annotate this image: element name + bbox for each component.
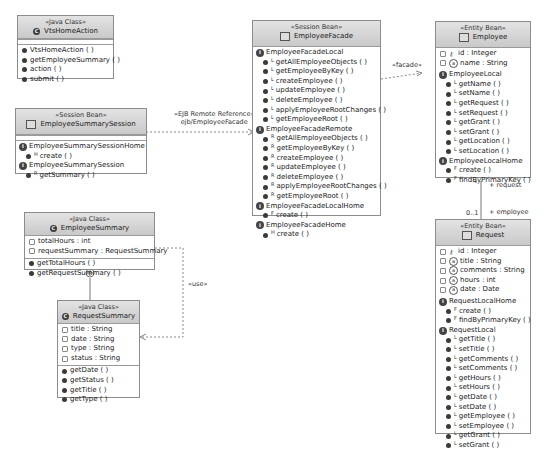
key-icon: ⚷ bbox=[449, 51, 456, 57]
method-item[interactable]: Hcreate ( ) bbox=[253, 230, 380, 240]
facade-label: «facade» bbox=[392, 61, 422, 69]
public-method-icon bbox=[263, 117, 268, 122]
attribute-item[interactable]: ⚷id : Integer bbox=[436, 49, 530, 59]
class-vtshomeaction[interactable]: «Java Class» CVtsHomeAction VtsHomeActio… bbox=[17, 15, 114, 79]
public-method-icon bbox=[446, 178, 451, 183]
class-employeesummary[interactable]: «Java Class» CEmployeeSummary totalHours… bbox=[24, 212, 155, 270]
private-attribute-icon bbox=[440, 268, 446, 274]
method-item[interactable]: FfindByPrimaryKey ( ) bbox=[436, 176, 530, 186]
method-item[interactable]: getTitle ( ) bbox=[58, 386, 139, 396]
bean-request[interactable]: «Entity Bean» Request ⚷id : Integeratitl… bbox=[435, 219, 531, 434]
interface-icon: I bbox=[439, 157, 447, 165]
attribute-item[interactable]: date : String bbox=[58, 335, 139, 345]
method-item[interactable]: LsetGrant ( ) bbox=[436, 128, 530, 138]
method-item[interactable]: LgetRequest ( ) bbox=[436, 99, 530, 109]
attribute-label: id : Integer bbox=[458, 49, 496, 59]
interface-name: RequestLocalHome bbox=[449, 297, 516, 307]
bean-employeesummarysession[interactable]: «Session Bean» EmployeeSummarySession IE… bbox=[15, 108, 147, 174]
class-requestsummary[interactable]: «Java Class» CRequestSummary title : Str… bbox=[57, 300, 140, 398]
method-item[interactable]: LsetGrant ( ) bbox=[436, 441, 530, 451]
method-item[interactable]: getType ( ) bbox=[58, 395, 139, 405]
interface-marker: R bbox=[271, 152, 274, 162]
class-name: Request bbox=[476, 231, 504, 240]
method-item[interactable]: getTotalHours ( ) bbox=[25, 259, 154, 269]
method-item[interactable]: LsetRequest ( ) bbox=[436, 109, 530, 119]
method-item[interactable]: getStatus ( ) bbox=[58, 376, 139, 386]
method-item[interactable]: Hcreate ( ) bbox=[16, 152, 146, 162]
interface-marker: L bbox=[454, 372, 457, 382]
method-item[interactable]: LgetName ( ) bbox=[436, 80, 530, 90]
method-item[interactable]: LgetEmployeeRoot ( ) bbox=[253, 115, 380, 125]
bean-employee[interactable]: «Entity Bean» Employee ⚷id : Integeranam… bbox=[435, 21, 531, 178]
interface-marker: L bbox=[271, 94, 274, 104]
method-item[interactable]: action ( ) bbox=[18, 65, 113, 75]
attribute-item[interactable]: ⚷id : Integer bbox=[436, 247, 530, 257]
public-method-icon bbox=[62, 388, 67, 393]
method-item[interactable]: getDate ( ) bbox=[58, 366, 139, 376]
method-item[interactable]: getEmployeeSummary ( ) bbox=[18, 56, 113, 66]
attribute-item[interactable]: acomments : String bbox=[436, 266, 530, 276]
attribute-item[interactable]: atitle : String bbox=[436, 257, 530, 267]
method-item[interactable]: LgetTitle ( ) bbox=[436, 335, 530, 345]
method-item[interactable]: VtsHomeAction ( ) bbox=[18, 46, 113, 56]
method-item[interactable]: LgetLocation ( ) bbox=[436, 137, 530, 147]
attribute-item[interactable]: totalHours : int bbox=[25, 237, 154, 247]
method-label: findByPrimaryKey ( ) bbox=[459, 316, 531, 326]
public-method-icon bbox=[62, 378, 67, 383]
method-item[interactable]: LsetComments ( ) bbox=[436, 364, 530, 374]
attribute-item[interactable]: requestSummary : RequestSummary bbox=[25, 247, 154, 257]
method-item[interactable]: Fcreate ( ) bbox=[253, 211, 380, 221]
attribute-item[interactable]: ahours : int bbox=[436, 276, 530, 286]
method-label: getDate ( ) bbox=[70, 366, 108, 376]
interface-item[interactable]: IEmployeeLocal bbox=[436, 70, 530, 80]
attribute-item[interactable]: status : String bbox=[58, 354, 139, 364]
interface-name: EmployeeFacadeLocal bbox=[266, 48, 343, 58]
private-attribute-icon bbox=[62, 346, 68, 352]
attribute-item[interactable]: adate : Date bbox=[436, 285, 530, 295]
public-method-icon bbox=[29, 261, 34, 266]
facade-connector[interactable] bbox=[381, 73, 422, 79]
method-item[interactable]: RgetSummary ( ) bbox=[16, 171, 146, 181]
cmp-field-icon: a bbox=[449, 266, 458, 275]
method-item[interactable]: LsetHours ( ) bbox=[436, 383, 530, 393]
method-item[interactable]: LgetGrant ( ) bbox=[436, 431, 530, 441]
method-item[interactable]: LgetDate ( ) bbox=[436, 393, 530, 403]
private-attribute-icon bbox=[440, 249, 446, 255]
interface-icon: I bbox=[19, 162, 27, 170]
method-item[interactable]: LsetLocation ( ) bbox=[436, 147, 530, 157]
interface-marker: H bbox=[271, 228, 275, 238]
method-label: setDate ( ) bbox=[459, 403, 496, 413]
method-item[interactable]: Fcreate ( ) bbox=[436, 307, 530, 317]
method-item[interactable]: LsetEmployee ( ) bbox=[436, 422, 530, 432]
interface-item[interactable]: IRequestLocalHome bbox=[436, 297, 530, 307]
method-item[interactable]: submit ( ) bbox=[18, 75, 113, 85]
attribute-item[interactable]: title : String bbox=[58, 325, 139, 335]
interface-marker: L bbox=[454, 78, 457, 88]
public-method-icon bbox=[263, 79, 268, 84]
method-item[interactable]: LgetEmployee ( ) bbox=[436, 412, 530, 422]
method-item[interactable]: getRequestSummary ( ) bbox=[25, 269, 154, 279]
attribute-label: name : String bbox=[460, 59, 508, 69]
method-item[interactable]: LgetComments ( ) bbox=[436, 355, 530, 365]
method-item[interactable]: LsetTitle ( ) bbox=[436, 345, 530, 355]
attribute-item[interactable]: aname : String bbox=[436, 59, 530, 69]
private-attribute-icon bbox=[62, 356, 68, 362]
interface-item[interactable]: IRequestLocal bbox=[436, 326, 530, 336]
public-method-icon bbox=[22, 77, 27, 82]
bean-employeefacade[interactable]: «Session Bean» EmployeeFacade IEmployeeF… bbox=[252, 20, 381, 216]
method-label: deleteEmployee ( ) bbox=[276, 173, 343, 183]
method-item[interactable]: LsetDate ( ) bbox=[436, 403, 530, 413]
method-label: create ( ) bbox=[277, 230, 309, 240]
method-item[interactable]: RgetEmployeeRoot ( ) bbox=[253, 192, 380, 202]
method-item[interactable]: LsetName ( ) bbox=[436, 89, 530, 99]
method-item[interactable]: LgetHours ( ) bbox=[436, 374, 530, 384]
method-label: getTitle ( ) bbox=[70, 386, 106, 396]
method-item[interactable]: LgetGrant ( ) bbox=[436, 118, 530, 128]
attribute-item[interactable]: type : String bbox=[58, 344, 139, 354]
interface-marker: R bbox=[271, 190, 274, 200]
public-method-icon bbox=[446, 386, 451, 391]
interface-item[interactable]: IEmployeeLocalHome bbox=[436, 157, 530, 167]
method-item[interactable]: Fcreate ( ) bbox=[436, 166, 530, 176]
method-item[interactable]: FfindByPrimaryKey ( ) bbox=[436, 316, 530, 326]
entity-bean-icon bbox=[459, 33, 469, 42]
